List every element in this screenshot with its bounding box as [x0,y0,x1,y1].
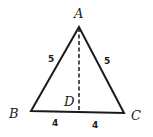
vertex-label-d: D [63,94,75,109]
vertex-label-b: B [8,106,19,121]
side-label-ac: 5 [104,56,110,66]
triangle-abc [31,27,124,113]
vertex-label-a: A [73,6,83,21]
triangle-diagram: A B C D 5 5 4 4 [0,0,153,137]
side-label-ab: 5 [48,54,54,64]
vertex-label-c: C [131,108,141,123]
side-label-dc: 4 [92,120,98,130]
side-label-bd: 4 [52,118,58,128]
